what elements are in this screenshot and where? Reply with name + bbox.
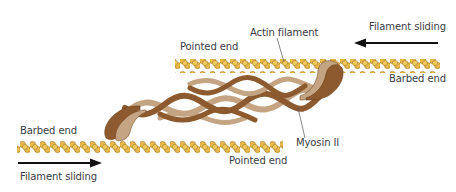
- filament-sliding-top-label: Filament sliding: [369, 22, 446, 32]
- myosin-leader-line: [298, 108, 305, 138]
- pointed-end-top-label: Pointed end: [180, 42, 238, 52]
- myosin-ii-label: Myosin II: [296, 138, 339, 148]
- myosin-head-left: [105, 106, 146, 141]
- filament-sliding-bottom-label: Filament sliding: [20, 172, 97, 182]
- actin-filament-top: [175, 59, 440, 73]
- actin-filament-label: Actin filament: [250, 28, 318, 38]
- actin-filament-bottom: [17, 140, 283, 154]
- arrow-left-icon: [354, 39, 438, 48]
- barbed-end-bottom-label: Barbed end: [20, 126, 77, 136]
- actin-leader-line: [277, 38, 284, 62]
- arrow-right-icon: [18, 159, 102, 168]
- pointed-end-bottom-label: Pointed end: [229, 156, 287, 166]
- barbed-end-top-label: Barbed end: [389, 74, 446, 84]
